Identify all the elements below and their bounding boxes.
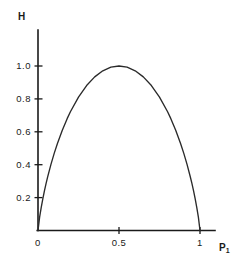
entropy-figure: 0.20.40.60.81.0 00.51 H P1 bbox=[0, 0, 247, 264]
y-axis-title: H bbox=[18, 12, 25, 22]
x-axis-title: P1 bbox=[219, 243, 230, 253]
y-tick-label: 0.8 bbox=[0, 94, 31, 104]
x-tick-label: 1 bbox=[180, 238, 220, 248]
entropy-curve bbox=[38, 66, 200, 231]
y-tick-label: 0.6 bbox=[0, 127, 31, 137]
x-tick-label: 0 bbox=[18, 238, 58, 248]
plot-canvas bbox=[0, 0, 247, 264]
y-tick-label: 0.4 bbox=[0, 160, 31, 170]
x-tick-label: 0.5 bbox=[99, 238, 139, 248]
x-axis-title-base: P bbox=[219, 242, 226, 253]
y-tick-label: 1.0 bbox=[0, 61, 31, 71]
x-axis-title-subscript: 1 bbox=[226, 247, 230, 254]
y-tick-label: 0.2 bbox=[0, 193, 31, 203]
axes-group bbox=[37, 30, 215, 231]
